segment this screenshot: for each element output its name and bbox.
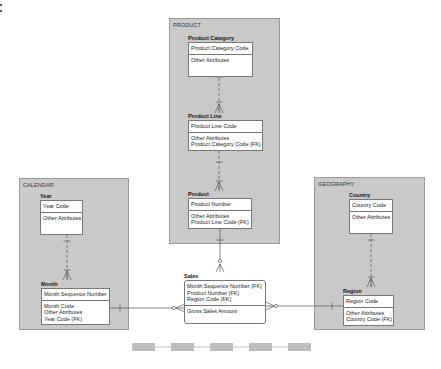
zero-mark bbox=[218, 259, 221, 262]
entity-title: Product Line bbox=[188, 113, 263, 120]
crowfoot bbox=[266, 302, 274, 310]
key-attribute: Product Line Code bbox=[191, 123, 260, 130]
attribute: Product Line Code (FK) bbox=[191, 219, 249, 226]
key-attribute: Month Sequence Number bbox=[44, 291, 107, 298]
primary-key-section: Month Sequence Number (FK) Product Numbe… bbox=[185, 281, 265, 306]
entity-box: Country Code Other Attributes bbox=[349, 199, 393, 234]
entity-box: Product Number Other Attributes Product … bbox=[188, 198, 252, 229]
entity-box: Year Code Other Attributes bbox=[40, 200, 83, 235]
entity-product[interactable]: Product Product Number Other Attributes … bbox=[188, 191, 252, 229]
zero-mark bbox=[172, 306, 175, 309]
attribute: Product Category Code (FK) bbox=[191, 141, 260, 148]
entity-box: Product Line Code Other Attributes Produ… bbox=[188, 120, 263, 151]
entity-title: Country bbox=[349, 192, 393, 199]
key-attribute: Product Number bbox=[191, 201, 249, 208]
crowfoot bbox=[215, 104, 223, 113]
key-attribute: Region Code (FK) bbox=[187, 296, 263, 303]
crowfoot bbox=[367, 278, 375, 287]
attributes-section: Other Attributes Country Code (FK) bbox=[344, 308, 393, 325]
entity-box: Month Sequence Number (FK) Product Numbe… bbox=[184, 280, 266, 324]
attributes-section: Gross Sales Amount bbox=[185, 306, 265, 323]
attribute: Other Attributes bbox=[352, 214, 390, 221]
key-attribute: Month Sequence Number (FK) bbox=[187, 283, 263, 290]
entity-month[interactable]: Month Month Sequence Number Month Code O… bbox=[41, 281, 110, 325]
attribute: Country Code (FK) bbox=[346, 316, 391, 323]
key-attribute: Region Code bbox=[346, 298, 391, 305]
primary-key-section: Country Code bbox=[350, 200, 392, 212]
entity-title: Product bbox=[188, 191, 252, 198]
entity-title: Product Category bbox=[188, 35, 253, 42]
crowfoot bbox=[215, 182, 223, 191]
entity-title: Sales bbox=[184, 273, 266, 280]
entity-box: Product Category Code Other Attributes bbox=[188, 42, 253, 77]
attributes-section: Other Attributes Product Line Code (FK) bbox=[189, 211, 251, 228]
pager-item-1[interactable] bbox=[132, 343, 155, 351]
key-attribute: Year Code bbox=[43, 203, 80, 210]
primary-key-section: Product Line Code bbox=[189, 121, 262, 133]
pager-item-5[interactable] bbox=[288, 343, 311, 351]
pager-item-3[interactable] bbox=[210, 343, 233, 351]
attribute: Year Code (FK) bbox=[44, 316, 107, 323]
entity-box: Month Sequence Number Month Code Other A… bbox=[41, 288, 110, 325]
attribute: Other Attributes bbox=[191, 57, 250, 64]
key-attribute: Country Code bbox=[352, 202, 390, 209]
attribute: Other Attributes bbox=[43, 215, 80, 222]
primary-key-section: Product Number bbox=[189, 199, 251, 211]
primary-key-section: Product Category Code bbox=[189, 43, 252, 55]
entity-year[interactable]: Year Year Code Other Attributes bbox=[40, 193, 83, 235]
entity-title: Month bbox=[41, 281, 110, 288]
entity-region[interactable]: Region Region Code Other Attributes Coun… bbox=[343, 288, 394, 326]
zero-mark bbox=[274, 304, 277, 307]
attributes-section: Other Attributes bbox=[41, 213, 82, 234]
entity-country[interactable]: Country Country Code Other Attributes bbox=[349, 192, 393, 234]
entity-product-category[interactable]: Product Category Product Category Code O… bbox=[188, 35, 253, 77]
entity-title: Region bbox=[343, 288, 394, 295]
pager-item-2[interactable] bbox=[171, 343, 194, 351]
attributes-section: Month Code Other Attributes Year Code (F… bbox=[42, 301, 109, 325]
crowfoot bbox=[216, 264, 224, 272]
attribute: Gross Sales Amount bbox=[187, 308, 263, 315]
crowfoot bbox=[63, 271, 71, 280]
primary-key-section: Year Code bbox=[41, 201, 82, 213]
entity-box: Region Code Other Attributes Country Cod… bbox=[343, 295, 394, 326]
entity-sales[interactable]: Sales Month Sequence Number (FK) Product… bbox=[184, 273, 266, 324]
key-attribute: Product Category Code bbox=[191, 45, 250, 52]
attributes-section: Other Attributes bbox=[189, 55, 252, 76]
entity-title: Year bbox=[40, 193, 83, 200]
primary-key-section: Month Sequence Number bbox=[42, 289, 109, 301]
entity-product-line[interactable]: Product Line Product Line Code Other Att… bbox=[188, 113, 263, 151]
attributes-section: Other Attributes bbox=[350, 212, 392, 233]
pager-item-4[interactable] bbox=[249, 343, 272, 351]
primary-key-section: Region Code bbox=[344, 296, 393, 308]
attributes-section: Other Attributes Product Category Code (… bbox=[189, 133, 262, 150]
